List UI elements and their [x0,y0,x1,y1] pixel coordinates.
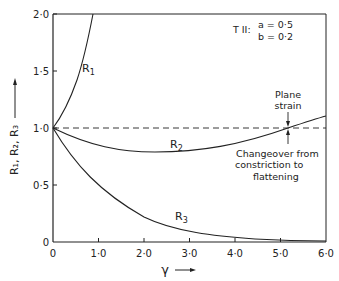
x-tick-1: 1·0 [91,248,107,259]
chart: 0 0·5 1·0 1·5 2·0 0 1·0 2·0 3·0 4·0 5·0 … [0,0,339,281]
param-label: T II: [232,24,251,35]
x-tick-6: 6·0 [318,248,334,259]
annotation-changeover-1: Changeover from [236,148,319,159]
y-axis-label: R₁, R₂, R₃ [8,125,21,175]
label-r1: R1 [82,62,95,77]
annotation-plane: Plane [275,89,301,100]
y-tick-1.0: 1·0 [33,123,49,134]
annotation-changeover-2: constriction to [235,159,303,170]
y-tick-2.0: 2·0 [33,9,49,20]
y-tick-0: 0 [43,237,49,248]
x-tick-0: 0 [50,248,56,259]
annotation-strain: strain [274,100,301,111]
curve-r2 [53,116,326,152]
y-arrow-head-icon [13,78,17,85]
x-axis-label: γ [161,262,169,277]
x-arrow-head-icon [190,268,196,272]
y-tick-0.5: 0·5 [33,180,49,191]
y-tick-1.5: 1·5 [33,66,49,77]
param-b: b = 0·2 [258,31,293,42]
x-tick-4: 4·0 [227,248,243,259]
arrow-down-icon [286,121,290,127]
annotation-changeover-3: flattening [253,171,299,182]
x-tick-2: 2·0 [136,248,152,259]
label-r2: R2 [170,138,183,153]
curve-r3 [53,128,326,241]
arrow-up-icon [286,129,290,135]
x-tick-5: 5·0 [273,248,289,259]
x-tick-3: 3·0 [182,248,198,259]
label-r3: R3 [175,210,188,225]
param-a: a = 0·5 [258,19,293,30]
